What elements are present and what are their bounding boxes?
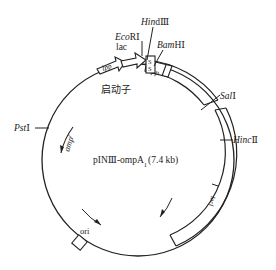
hincii-label: HincⅡ [232, 135, 258, 145]
hindiii-label: HindⅢ [140, 17, 169, 27]
ori-label: ori [80, 226, 90, 236]
lac-label: lac [116, 42, 127, 52]
amp-label: ampr [61, 133, 76, 153]
ori-arrowhead [94, 219, 101, 225]
signal-label-2: S [148, 65, 152, 72]
plasmid-title: pINⅢ-ompA1(7.4 kb) [93, 155, 178, 168]
signal-label-1: S [148, 58, 152, 65]
psti-label: PstⅠ [13, 123, 30, 133]
plasmid-map: lpp lacI lpp S S 启动子 lac EcoRⅠ HindⅢ Bam… [0, 0, 276, 270]
ecori-label: EcoRⅠ [114, 32, 140, 42]
laci-band-inner [170, 110, 225, 235]
sali-label: SalⅠ [220, 91, 236, 101]
lpp-promoter: lpp [97, 57, 125, 74]
hindiii-pointer [147, 27, 153, 60]
ori-box [72, 235, 87, 250]
laci-band-end [170, 235, 176, 246]
laci-arrowhead [160, 209, 165, 217]
laci-band-outer [176, 108, 237, 246]
promoter-label: 启动子 [101, 83, 131, 95]
laci-label: lacI [208, 196, 217, 208]
laci-marker [212, 184, 218, 186]
bamhi-label: BamHⅠ [157, 40, 185, 50]
